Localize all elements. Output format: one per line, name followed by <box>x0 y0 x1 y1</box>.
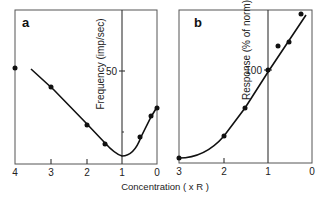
panel-a-ylabel: Frequency (imp/sec) <box>95 18 106 109</box>
panel-a-xtick-label: 1 <box>119 167 125 178</box>
panel-b: b 100 Response (% of norm) 3 2 1 0 <box>176 0 315 177</box>
panel-b-label: b <box>194 15 202 30</box>
panel-b-xtick-label: 1 <box>265 166 271 177</box>
data-point <box>222 134 227 139</box>
data-point <box>299 12 304 17</box>
panel-a-xtick-label: 0 <box>154 167 160 178</box>
data-point <box>13 66 18 71</box>
panel-a-label: a <box>22 15 30 30</box>
panel-b-ylabel: Response (% of norm) <box>241 0 252 100</box>
data-point <box>287 40 292 45</box>
data-point <box>177 156 182 161</box>
data-point <box>243 106 248 111</box>
data-point <box>85 123 90 128</box>
panel-a-fit-curve <box>31 69 157 156</box>
panel-a-xtick-label: 4 <box>12 167 18 178</box>
chart-figure: a 50 Frequency (imp/sec) 4 3 2 1 0 b 100… <box>0 0 327 197</box>
data-point <box>276 44 281 49</box>
panel-a-ytick-label: 50 <box>106 66 118 77</box>
data-point <box>266 68 271 73</box>
x-axis-label: Concentration ( x R ) <box>121 181 209 192</box>
data-point <box>155 106 160 111</box>
panel-b-xtick-label: 3 <box>176 166 182 177</box>
data-point <box>138 135 143 140</box>
data-point <box>149 114 154 119</box>
data-point <box>103 142 108 147</box>
panel-b-xtick-label: 0 <box>309 166 315 177</box>
panel-a-xtick-label: 2 <box>84 167 90 178</box>
panel-a-xtick-label: 3 <box>48 167 54 178</box>
panel-a-frame <box>15 10 157 164</box>
panel-b-xtick-label: 2 <box>221 166 227 177</box>
data-point <box>49 85 54 90</box>
panel-a: a 50 Frequency (imp/sec) 4 3 2 1 0 <box>12 10 160 178</box>
